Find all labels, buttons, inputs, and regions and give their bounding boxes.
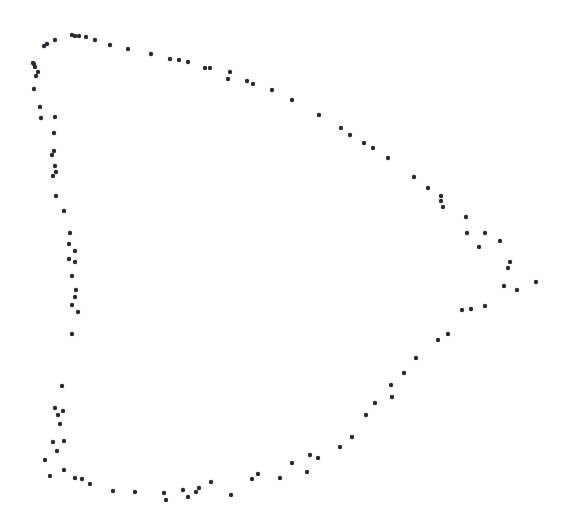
scatter-point <box>111 489 115 493</box>
scatter-point <box>108 43 112 47</box>
scatter-point <box>515 288 519 292</box>
scatter-point <box>164 498 168 502</box>
scatter-point <box>54 194 58 198</box>
scatter-point <box>62 468 66 472</box>
scatter-point <box>88 482 92 486</box>
scatter-point <box>73 260 77 264</box>
scatter-point <box>162 491 166 495</box>
scatter-point <box>446 332 450 336</box>
scatter-point <box>168 57 172 61</box>
scatter-point <box>250 477 254 481</box>
scatter-point <box>52 149 56 153</box>
scatter-point <box>506 266 510 270</box>
scatter-point <box>181 488 185 492</box>
scatter-point <box>209 480 213 484</box>
scatter-point <box>73 476 77 480</box>
scatter-point <box>48 474 52 478</box>
scatter-point <box>508 260 512 264</box>
scatter-point <box>43 458 47 462</box>
scatter-point <box>133 490 137 494</box>
scatter-point <box>203 66 207 70</box>
scatter-point <box>245 79 249 83</box>
scatter-point <box>464 215 468 219</box>
scatter-point <box>441 205 445 209</box>
scatter-point <box>477 245 481 249</box>
scatter-point <box>68 231 72 235</box>
scatter-point <box>350 435 354 439</box>
scatter-point <box>52 131 56 135</box>
scatter-point <box>389 383 393 387</box>
scatter-point <box>58 422 62 426</box>
plot-background <box>0 0 567 521</box>
scatter-point <box>74 288 78 292</box>
scatter-point <box>194 490 198 494</box>
scatter-point <box>226 77 230 81</box>
scatter-point <box>426 186 430 190</box>
scatter-point <box>483 304 487 308</box>
scatter-point <box>76 310 80 314</box>
scatter-point <box>208 66 212 70</box>
scatter-point <box>60 384 64 388</box>
scatter-point <box>386 156 390 160</box>
scatter-point <box>38 105 42 109</box>
scatter-point <box>256 472 260 476</box>
scatter-point <box>61 409 65 413</box>
scatter-point <box>53 38 57 42</box>
scatter-point <box>414 356 418 360</box>
scatter-point <box>439 194 443 198</box>
scatter-point <box>338 445 342 449</box>
scatter-point <box>32 87 36 91</box>
scatter-point <box>534 280 538 284</box>
scatter-point <box>197 486 201 490</box>
scatter-point <box>73 249 77 253</box>
scatter-point <box>93 38 97 42</box>
scatter-point <box>126 47 130 51</box>
scatter-point <box>177 58 181 62</box>
scatter-point <box>186 60 190 64</box>
scatter-point <box>53 164 57 168</box>
scatter-point <box>67 257 71 261</box>
scatter-point <box>308 453 312 457</box>
scatter-point <box>305 470 309 474</box>
scatter-point <box>67 242 71 246</box>
scatter-point <box>36 70 40 74</box>
scatter-point <box>460 308 464 312</box>
scatter-point <box>373 401 377 405</box>
scatter-point <box>70 332 74 336</box>
scatter-point <box>70 274 74 278</box>
scatter-point <box>56 413 60 417</box>
scatter-plot-canvas <box>0 0 567 521</box>
scatter-point <box>228 70 232 74</box>
scatter-point <box>62 209 66 213</box>
scatter-point <box>270 88 274 92</box>
scatter-point <box>371 146 375 150</box>
scatter-point <box>229 493 233 497</box>
scatter-point <box>70 303 74 307</box>
scatter-point <box>364 413 368 417</box>
scatter-point <box>465 231 469 235</box>
scatter-point <box>39 116 43 120</box>
scatter-point <box>251 82 255 86</box>
scatter-point <box>436 338 440 342</box>
scatter-point <box>84 35 88 39</box>
scatter-point <box>278 476 282 480</box>
scatter-point <box>77 34 81 38</box>
scatter-point <box>502 284 506 288</box>
scatter-point <box>53 115 57 119</box>
scatter-point <box>51 440 55 444</box>
scatter-point <box>73 295 77 299</box>
scatter-point <box>402 371 406 375</box>
scatter-point <box>316 456 320 460</box>
scatter-point <box>412 175 416 179</box>
scatter-point <box>483 231 487 235</box>
scatter-point <box>34 74 38 78</box>
scatter-point <box>439 199 443 203</box>
scatter-point <box>149 52 153 56</box>
scatter-point <box>31 61 35 65</box>
scatter-point <box>317 113 321 117</box>
scatter-point <box>62 439 66 443</box>
scatter-point <box>51 174 55 178</box>
scatter-point <box>469 307 473 311</box>
scatter-point <box>290 98 294 102</box>
scatter-point <box>73 34 77 38</box>
